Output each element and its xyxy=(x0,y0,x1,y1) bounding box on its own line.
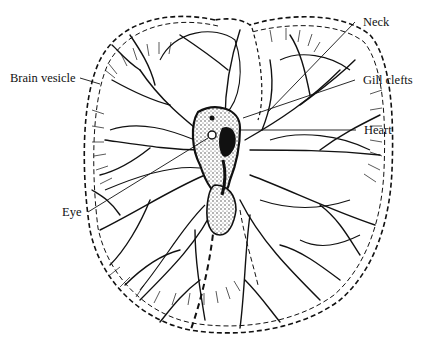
leader-brain-vesicle xyxy=(80,78,100,84)
embryo-diagram xyxy=(0,0,425,343)
lobe-division-line xyxy=(252,28,262,120)
leader-gill-clefts xyxy=(243,80,355,118)
outer-membrane-outline xyxy=(84,16,392,333)
label-gill-clefts: Gill clefts xyxy=(363,74,413,87)
eye-spot xyxy=(208,131,216,139)
lower-dashed-line xyxy=(190,215,215,332)
label-heart: Heart xyxy=(364,124,392,137)
embryo-head xyxy=(193,107,240,195)
label-brain-vesicle: Brain vesicle xyxy=(10,72,76,85)
vessel-regions xyxy=(105,32,370,290)
embryo xyxy=(193,107,240,235)
capillary-fringe xyxy=(92,28,382,305)
label-eye: Eye xyxy=(62,206,81,219)
label-neck: Neck xyxy=(363,16,389,29)
